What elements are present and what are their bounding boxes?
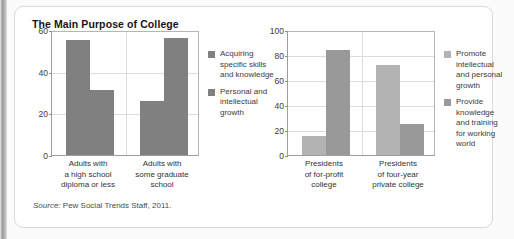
- bar: [90, 90, 114, 155]
- book-spine-edge: [0, 0, 7, 239]
- x-axis-label: Adults witha high schooldiploma or less: [51, 159, 125, 191]
- axis-tick: [285, 131, 288, 132]
- legend-label: Promoteintellectualand personalgrowth: [456, 49, 510, 91]
- axis-tick: [285, 81, 288, 82]
- axis-tick: [49, 156, 52, 157]
- bar: [66, 40, 90, 155]
- bar: [140, 101, 164, 155]
- legend-item[interactable]: Provideknowledgeand trainingfor workingw…: [444, 97, 510, 150]
- legend-swatch-icon: [444, 51, 451, 58]
- bar: [302, 136, 326, 155]
- y-tick-label: 20: [275, 126, 284, 136]
- bar: [164, 38, 188, 155]
- legend: Promoteintellectualand personalgrowthPro…: [444, 49, 510, 156]
- y-tick-label: 60: [275, 76, 284, 86]
- axis-tick: [49, 73, 52, 74]
- y-tick-label: 60: [39, 26, 48, 36]
- axis-tick: [49, 114, 52, 115]
- source-label: Source:: [33, 201, 61, 210]
- page-title: The Main Purpose of College: [32, 18, 179, 30]
- axis-tick: [285, 31, 288, 32]
- gridline: [288, 81, 434, 82]
- axis-tick: [285, 156, 288, 157]
- legend-swatch-icon: [208, 51, 215, 58]
- y-tick-label: 0: [279, 151, 284, 161]
- legend-label: Provideknowledgeand trainingfor workingw…: [456, 97, 510, 150]
- legend-swatch-icon: [444, 99, 451, 106]
- bar: [400, 124, 424, 155]
- axis-tick: [285, 56, 288, 57]
- plot-area: [287, 31, 435, 156]
- y-tick-label: 40: [275, 101, 284, 111]
- legend-swatch-icon: [208, 89, 215, 96]
- legend-item[interactable]: Promoteintellectualand personalgrowth: [444, 49, 510, 91]
- x-axis-label: Presidentsof four-yearprivate college: [361, 159, 435, 191]
- y-axis-tick-labels: 0204060: [25, 31, 48, 156]
- source-text: Pew Social Trends Staff, 2011.: [61, 201, 172, 210]
- gridline: [288, 106, 434, 107]
- y-tick-label: 20: [39, 109, 48, 119]
- x-axis-label: Presidentsof for-profitcollege: [287, 159, 361, 191]
- group-separator: [362, 32, 363, 155]
- y-tick-label: 80: [275, 51, 284, 61]
- figure-card: The Main Purpose of College 0204060Adult…: [14, 6, 493, 228]
- x-axis-label: Adults withsome graduateschool: [125, 159, 199, 191]
- axis-tick: [285, 106, 288, 107]
- y-tick-label: 100: [270, 26, 284, 36]
- bar: [376, 65, 400, 155]
- page-background: The Main Purpose of College 0204060Adult…: [0, 0, 514, 239]
- source-note: Source: Pew Social Trends Staff, 2011.: [33, 201, 171, 210]
- bar: [326, 50, 350, 155]
- axis-tick: [49, 31, 52, 32]
- y-tick-label: 0: [43, 151, 48, 161]
- y-tick-label: 40: [39, 68, 48, 78]
- y-axis-tick-labels: 020406080100: [261, 31, 284, 156]
- plot-area: [51, 31, 199, 156]
- group-separator: [126, 32, 127, 155]
- gridline: [288, 56, 434, 57]
